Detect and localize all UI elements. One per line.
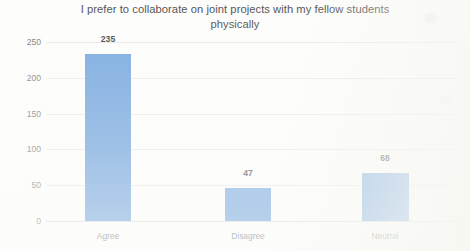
chart-title-line-2: physically [40,17,430,32]
x-axis-line: 0 [46,221,460,222]
bar-value-disagree: 47 [243,168,253,178]
x-axis-label-disagree: Disagree [231,231,265,241]
y-axis-tick-label: 200 [27,73,41,83]
x-axis-label-neutral: Neutral [372,231,399,241]
y-axis-tick-label: 150 [27,109,41,119]
y-axis-tick-label: 100 [27,144,41,154]
y-axis-tick-label: 50 [31,180,41,190]
y-axis-tick-label: 250 [27,37,41,47]
bar-value-neutral: 68 [380,153,390,163]
bar-disagree[interactable] [225,188,271,222]
bar-neutral[interactable] [362,173,409,222]
scan-artifact [406,240,420,246]
bar-value-agree: 235 [101,34,115,44]
y-axis-tick-label: 0 [36,216,41,226]
scan-artifact [440,96,450,103]
plot-area: 250 200 150 100 50 0 235 Agree 47 Disagr… [46,43,460,222]
chart-title: I prefer to collaborate on joint project… [40,2,430,32]
x-axis-label-agree: Agree [97,231,119,241]
bar-chart: I prefer to collaborate on joint project… [0,0,470,251]
chart-title-line-1: I prefer to collaborate on joint project… [40,2,430,17]
scan-artifact [424,14,437,23]
bar-agree[interactable] [85,54,131,222]
